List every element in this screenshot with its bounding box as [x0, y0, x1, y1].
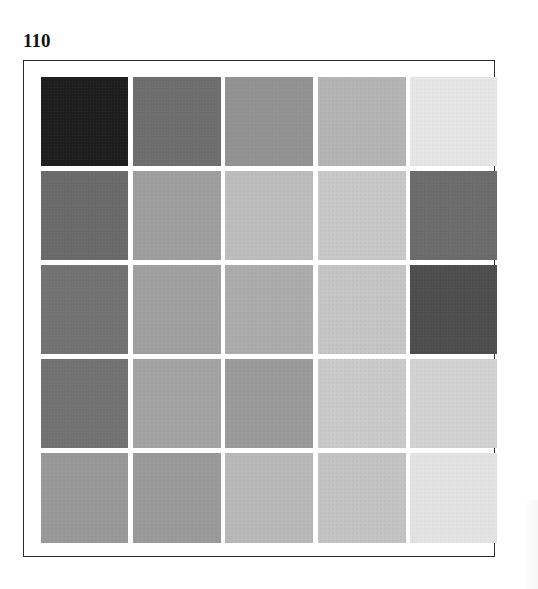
swatch-r2-c3 — [225, 171, 313, 260]
swatch-r1-c5 — [410, 77, 497, 166]
swatch-r4-c2 — [133, 359, 221, 448]
swatch-r4-c1 — [41, 359, 128, 448]
swatch-r4-c3 — [225, 359, 313, 448]
swatch-r3-c3 — [225, 265, 313, 354]
swatch-r5-c1 — [41, 453, 128, 543]
swatch-r3-c5 — [410, 265, 497, 354]
swatch-r1-c3 — [225, 77, 313, 166]
swatch-r5-c4 — [318, 453, 406, 543]
swatch-r3-c1 — [41, 265, 128, 354]
gray-swatch-grid — [41, 77, 497, 543]
swatch-r4-c4 — [318, 359, 406, 448]
swatch-r3-c2 — [133, 265, 221, 354]
plate-number-label: 110 — [23, 30, 50, 52]
swatch-r3-c4 — [318, 265, 406, 354]
swatch-r5-c5 — [410, 453, 497, 543]
swatch-r1-c2 — [133, 77, 221, 166]
swatch-r5-c2 — [133, 453, 221, 543]
swatch-r2-c2 — [133, 171, 221, 260]
swatch-r2-c4 — [318, 171, 406, 260]
swatch-r5-c3 — [225, 453, 313, 543]
swatch-r1-c1 — [41, 77, 128, 166]
swatch-r1-c4 — [318, 77, 406, 166]
swatch-r4-c5 — [410, 359, 497, 448]
scan-edge-shadow — [524, 500, 538, 589]
swatch-r2-c5 — [410, 171, 497, 260]
swatch-r2-c1 — [41, 171, 128, 260]
